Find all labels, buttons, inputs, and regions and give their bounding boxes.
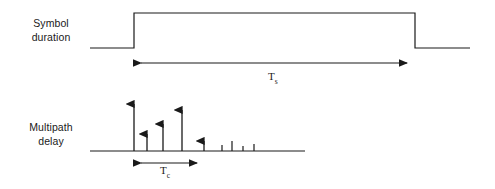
ts-symbol: T [268, 70, 275, 82]
tc-label: Tc [160, 164, 170, 179]
impulse-stem-group [134, 104, 254, 151]
multipath-impulse-train [90, 104, 305, 151]
tc-symbol: T [160, 164, 167, 176]
ts-subscript: s [275, 77, 278, 86]
diagram-vector-layer [0, 0, 495, 189]
diagram-canvas: Symbol duration Multipath delay [0, 0, 495, 189]
tc-subscript: c [167, 171, 170, 180]
ts-label: Ts [268, 70, 278, 85]
rectangular-pulse-path [90, 13, 470, 48]
symbol-duration-waveform [90, 13, 470, 48]
